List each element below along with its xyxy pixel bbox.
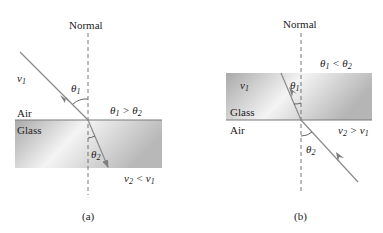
speed-label-a: v1 xyxy=(17,72,26,84)
lower-medium-label-a: Glass xyxy=(17,124,41,136)
lower-medium-label-b: Air xyxy=(230,124,245,136)
upper-medium-label-a: Air xyxy=(17,107,32,119)
theta2-label-a: θ2 xyxy=(91,148,100,160)
speed-relation-b: v2 > v1 xyxy=(338,124,369,136)
normal-label-a: Normal xyxy=(69,19,103,31)
upper-medium-label-b: Glass xyxy=(230,106,254,118)
angle-relation-a: θ1 > θ2 xyxy=(110,104,142,116)
v1-label-a: v1 xyxy=(17,72,26,84)
normal-label-b: Normal xyxy=(283,18,317,30)
refracted-arrowhead-b xyxy=(336,152,344,162)
speed-label-b: v1 xyxy=(240,79,249,91)
theta1-label-b: θ1 xyxy=(290,79,299,91)
caption-a: (a) xyxy=(82,210,94,222)
speed-relation-a: v2 < v1 xyxy=(124,172,155,184)
angle-arc-theta2-b xyxy=(301,132,312,136)
theta1-label-a: θ1 xyxy=(71,82,80,94)
theta2-label-b: θ2 xyxy=(306,143,315,155)
angle-relation-b: θ1 < θ2 xyxy=(320,57,352,69)
refraction-diagram xyxy=(0,0,383,233)
caption-b: (b) xyxy=(294,210,307,222)
angle-arc-theta1-a xyxy=(73,99,88,104)
